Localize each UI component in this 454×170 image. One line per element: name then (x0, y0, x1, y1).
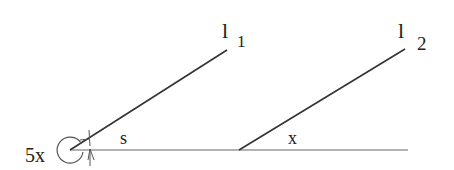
reflex-angle-label: 5x (25, 144, 45, 166)
line-l1 (70, 50, 227, 150)
geometry-diagram: 5x s x l 1 l 2 (0, 0, 454, 170)
line-l2 (239, 49, 405, 150)
angle-x-label: x (288, 128, 297, 148)
angle-s-label: s (120, 128, 127, 148)
line-l1-label: l (222, 18, 228, 43)
line-l2-label: l (398, 18, 404, 43)
line-l2-subscript: 2 (417, 33, 427, 54)
line-l1-subscript: 1 (237, 32, 246, 51)
reflex-angle-arc (57, 130, 94, 166)
